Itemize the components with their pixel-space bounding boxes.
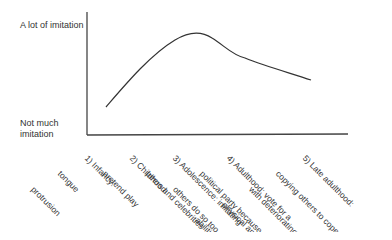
x-tick-line: tongue [56, 169, 97, 210]
imitation-curve [106, 33, 311, 107]
x-axis [87, 134, 348, 135]
